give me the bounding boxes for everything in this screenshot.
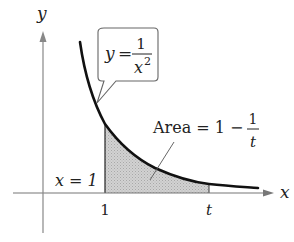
area-under-curve-diagram: y = 1 x 2 Area = 1 − 1 t x = 1 1 t x y bbox=[0, 0, 294, 242]
y-axis-label: y bbox=[36, 3, 47, 23]
callout-equals: = bbox=[118, 43, 132, 63]
x-axis-arrow-icon bbox=[263, 190, 274, 197]
area-label-denominator: t bbox=[250, 133, 257, 151]
area-label-prefix: Area = 1 − bbox=[152, 118, 243, 137]
callout-denominator-exp: 2 bbox=[144, 55, 151, 68]
y-axis-arrow-icon bbox=[40, 31, 47, 42]
y-axis bbox=[40, 31, 47, 233]
x-equals-1-label: x = 1 bbox=[55, 171, 98, 190]
callout-y: y bbox=[104, 43, 115, 63]
area-label-numerator: 1 bbox=[249, 111, 258, 127]
callout-denominator-x: x bbox=[134, 58, 143, 77]
tick-label-1: 1 bbox=[100, 201, 110, 219]
x-axis-label: x bbox=[280, 182, 290, 202]
callout-numerator: 1 bbox=[136, 35, 146, 53]
tick-label-t: t bbox=[206, 201, 213, 219]
